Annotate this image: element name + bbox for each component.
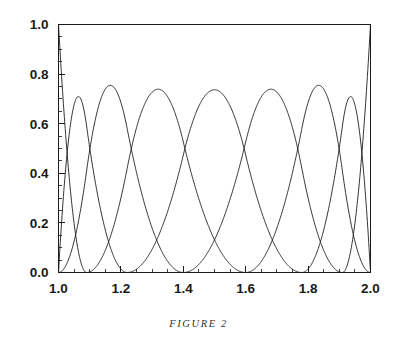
chart-plot: 0.00.20.40.60.81.0 1.01.21.41.61.82.0 FI…: [0, 0, 397, 342]
x-tick-label: 1.6: [236, 281, 255, 296]
y-tick-label: 1.0: [30, 17, 49, 32]
y-tick-label: 0.0: [30, 265, 49, 280]
figure-container: 0.00.20.40.60.81.0 1.01.21.41.61.82.0 FI…: [0, 0, 397, 342]
x-tick-label: 2.0: [361, 281, 380, 296]
x-tick-label: 1.2: [112, 281, 131, 296]
y-tick-label: 0.6: [30, 117, 49, 132]
x-tick-label: 1.0: [49, 281, 68, 296]
figure-caption: FIGURE 2: [168, 318, 228, 329]
x-tick-label: 1.4: [174, 281, 193, 296]
y-tick-label: 0.4: [30, 166, 49, 181]
y-tick-label: 0.2: [30, 216, 49, 231]
y-tick-label: 0.8: [30, 67, 49, 82]
x-tick-label: 1.8: [299, 281, 318, 296]
